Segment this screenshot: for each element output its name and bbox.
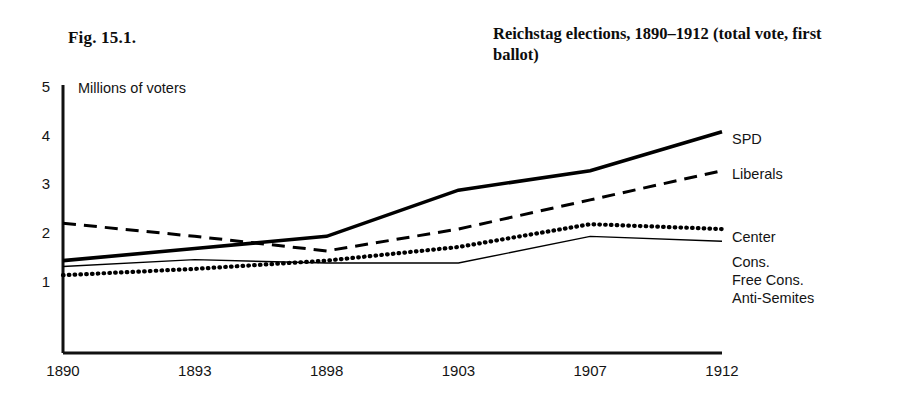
series-end-label-anti-semites: Anti-Semites bbox=[732, 290, 814, 306]
figure-root: Fig. 15.1. Reichstag elections, 1890–191… bbox=[0, 0, 899, 411]
chart-plot-area bbox=[0, 0, 899, 411]
y-axis-tick-label: 2 bbox=[28, 224, 50, 241]
series-end-label-cons: Cons. bbox=[732, 254, 770, 270]
series-end-label-center: Center bbox=[732, 229, 776, 245]
series-line-spd bbox=[63, 132, 722, 261]
x-axis-tick-label: 1903 bbox=[418, 362, 498, 379]
x-axis-tick-label: 1890 bbox=[23, 362, 103, 379]
series-line-center bbox=[63, 224, 722, 275]
series-line-liberals bbox=[63, 171, 722, 251]
y-axis-tick-label: 5 bbox=[28, 78, 50, 95]
x-axis-tick-label: 1907 bbox=[550, 362, 630, 379]
y-axis-tick-label: 4 bbox=[28, 127, 50, 144]
y-axis-tick-label: 3 bbox=[28, 175, 50, 192]
chart-axes bbox=[63, 85, 722, 353]
x-axis-tick-label: 1912 bbox=[682, 362, 762, 379]
series-end-label-liberals: Liberals bbox=[732, 166, 783, 182]
x-axis-tick-label: 1898 bbox=[287, 362, 367, 379]
x-axis-tick-label: 1893 bbox=[155, 362, 235, 379]
chart-series-group bbox=[63, 132, 722, 275]
y-axis-unit-label: Millions of voters bbox=[78, 80, 186, 96]
y-axis-tick-label: 1 bbox=[28, 273, 50, 290]
series-end-label-spd: SPD bbox=[732, 131, 762, 147]
series-end-label-free-cons: Free Cons. bbox=[732, 272, 804, 288]
